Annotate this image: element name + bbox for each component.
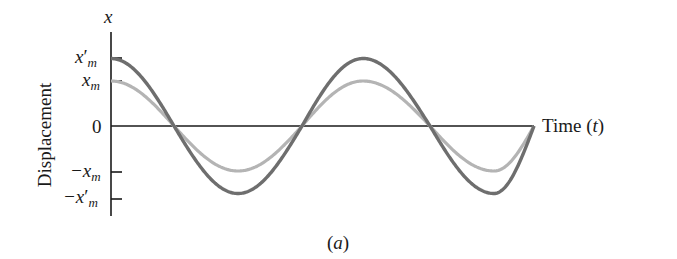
- tick-label-xm: xm: [82, 70, 100, 92]
- x-axis-label: Time (t): [542, 116, 604, 135]
- y-axis-symbol: x: [104, 7, 112, 26]
- figure-caption: (a): [327, 233, 349, 252]
- tick-label-neg-xpm: −x′m: [63, 187, 98, 209]
- y-axis-label: Displacement: [34, 83, 56, 187]
- tick-label-neg-xm: −xm: [70, 161, 101, 183]
- tick-label-xpm: x′m: [75, 47, 97, 69]
- figure: x x′m xm 0 −xm −x′m Displacement Time (t…: [0, 0, 677, 259]
- tick-label-zero: 0: [92, 117, 102, 136]
